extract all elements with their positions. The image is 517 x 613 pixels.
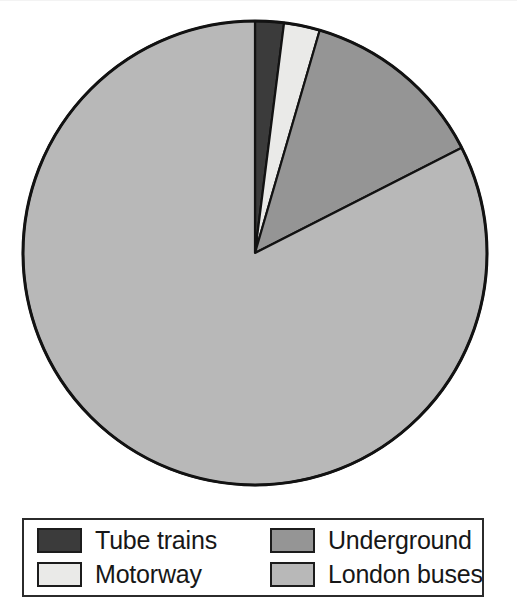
pie-slice-group xyxy=(23,21,487,485)
legend-swatch-tube-trains xyxy=(37,528,82,553)
legend-swatch-london-buses xyxy=(270,562,315,587)
pie-svg xyxy=(0,0,517,500)
legend-item-london-buses[interactable]: London buses xyxy=(257,558,483,593)
pie-chart-figure: Tube trains Underground Motorway London … xyxy=(0,0,517,613)
legend-label-tube-trains: Tube trains xyxy=(95,528,217,553)
legend-label-london-buses: London buses xyxy=(328,562,483,587)
legend-label-motorway: Motorway xyxy=(95,562,202,587)
legend-swatch-underground xyxy=(270,528,315,553)
legend-item-underground[interactable]: Underground xyxy=(257,523,483,558)
legend-swatch-motorway xyxy=(37,562,82,587)
legend-item-motorway[interactable]: Motorway xyxy=(24,558,257,593)
pie-plot-area xyxy=(0,0,517,500)
legend-item-tube-trains[interactable]: Tube trains xyxy=(24,523,257,558)
legend: Tube trains Underground Motorway London … xyxy=(22,518,484,597)
legend-label-underground: Underground xyxy=(328,528,472,553)
